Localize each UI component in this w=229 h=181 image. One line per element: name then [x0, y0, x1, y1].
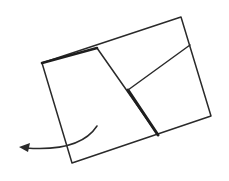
fold-direction-arrow: [19, 126, 97, 152]
arrowhead-icon: [19, 143, 30, 152]
folding-diagram: [0, 0, 229, 181]
top-edge-emphasis: [42, 48, 97, 63]
emphasized-fold-segment: [128, 90, 158, 135]
right-crease-line: [128, 45, 190, 90]
